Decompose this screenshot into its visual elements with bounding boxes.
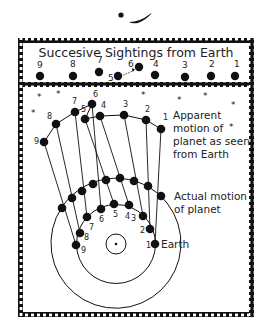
apparent-motion-caption: Apparent motion of planet as seen from E… (173, 109, 250, 160)
svg-text:motion of: motion of (173, 122, 224, 134)
svg-text:3: 3 (131, 214, 136, 223)
apparent-label-9: 9 (34, 137, 39, 146)
apparent-label-6: 6 (93, 90, 98, 99)
star-icon: * (31, 108, 36, 118)
svg-text:9: 9 (81, 246, 86, 255)
apparent-label-5: 5 (81, 105, 86, 114)
svg-text:4: 4 (125, 212, 130, 221)
star-icon: * (141, 90, 146, 100)
svg-text:7: 7 (89, 223, 94, 232)
sighting-label-8: 8 (70, 59, 76, 69)
sighting-label-6: 6 (128, 59, 134, 69)
star-icon: * (203, 91, 208, 101)
sightings-title: Succesive Sightings from Earth (39, 45, 234, 60)
sighting-label-5: 5 (108, 73, 114, 83)
sighting-label-1: 1 (234, 59, 240, 69)
sighting-label-2: 2 (209, 59, 215, 69)
star-icon: * (177, 95, 182, 105)
earth-label: Earth (161, 238, 189, 250)
apparent-label-8: 8 (47, 112, 52, 121)
comet-icon (118, 12, 152, 23)
apparent-label-7: 7 (72, 97, 77, 106)
star-icon: * (231, 100, 236, 110)
retrograde-motion-diagram: Succesive Sightings from Earth 9 8 7 5 6… (0, 0, 269, 331)
apparent-label-4: 4 (101, 101, 106, 110)
apparent-label-3: 3 (123, 100, 128, 109)
svg-text:Actual motion: Actual motion (174, 190, 247, 202)
star-icon: * (56, 89, 61, 99)
apparent-label-2: 2 (145, 105, 150, 114)
svg-text:of planet: of planet (174, 203, 221, 215)
sighting-label-4: 4 (153, 59, 159, 69)
svg-text:from Earth: from Earth (173, 148, 229, 160)
star-icon: * (229, 122, 234, 132)
actual-motion-caption: Actual motion of planet (174, 190, 247, 215)
sun-center-dot (115, 243, 118, 246)
apparent-label-1: 1 (163, 113, 168, 122)
svg-text:1: 1 (146, 241, 151, 250)
star-icon: * (37, 92, 42, 102)
svg-text:Apparent: Apparent (173, 109, 221, 121)
svg-text:2: 2 (140, 226, 145, 235)
svg-text:5: 5 (113, 210, 118, 219)
svg-text:8: 8 (84, 233, 89, 242)
svg-text:6: 6 (99, 215, 104, 224)
sighting-label-3: 3 (182, 60, 188, 70)
sighting-label-7: 7 (97, 55, 103, 65)
sighting-label-9: 9 (37, 60, 43, 70)
apparent-motion-path: 1 2 3 4 5 6 7 8 9 (34, 90, 168, 146)
svg-text:planet as seen: planet as seen (173, 135, 250, 147)
